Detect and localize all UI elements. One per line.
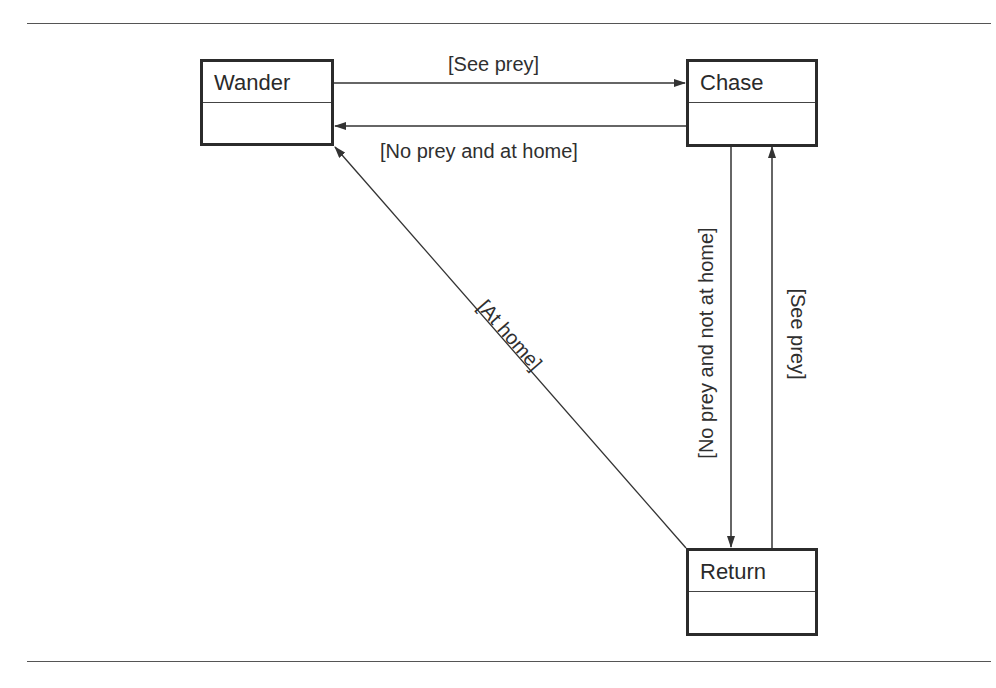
state-wander: Wander [200,59,334,146]
label-wander-to-chase: [See prey] [448,54,539,74]
state-name: Return [689,551,815,592]
label-chase-to-wander: [No prey and at home] [380,141,578,161]
label-return-to-chase: [See prey] [788,288,808,379]
state-return: Return [686,548,818,636]
label-chase-to-return: [No prey and not at home] [696,227,716,458]
transition-arrows [0,0,996,688]
state-name: Chase [689,62,815,103]
state-chase: Chase [686,59,818,147]
state-name: Wander [203,62,331,103]
